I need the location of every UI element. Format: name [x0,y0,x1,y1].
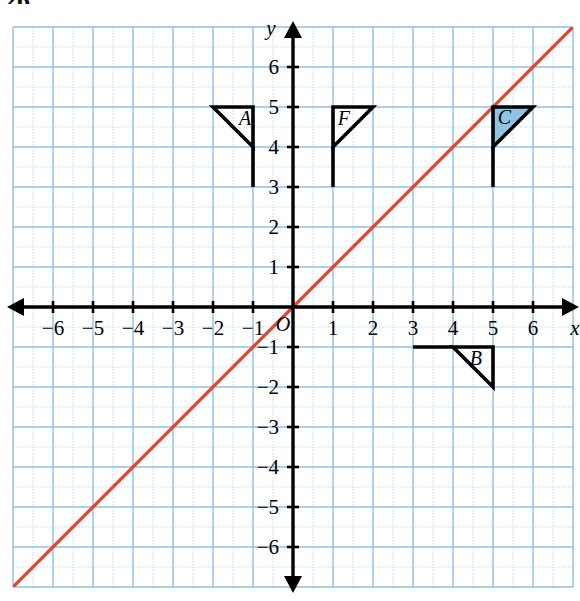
y-tick-label: 3 [269,175,280,199]
x-tick-label: −6 [42,316,64,340]
y-tick-label: −6 [257,535,279,559]
figure-f-label: F [337,107,351,129]
x-tick-label: −5 [82,316,104,340]
y-tick-label: −1 [257,335,279,359]
x-tick-label: 6 [528,316,539,340]
figure-c-label: C [498,106,512,128]
y-axis-label: y [264,16,276,40]
figure-a-label: A [237,107,252,129]
x-tick-label: 3 [408,316,419,340]
y-tick-label: −4 [257,455,280,479]
y-tick-label: −2 [257,375,279,399]
y-tick-label: 5 [269,95,280,119]
coordinate-plane-svg: −6−5−4−3−2−1123456654321−1−2−3−4−5−6 xyO… [0,0,580,601]
x-tick-label: 4 [448,316,459,340]
x-tick-label: −4 [122,316,145,340]
y-tick-label: 4 [269,135,280,159]
x-tick-label: −3 [162,316,184,340]
y-tick-label: −5 [257,495,279,519]
y-tick-label: 6 [269,55,280,79]
x-axis-label: x [569,316,580,340]
y-tick-label: −3 [257,415,279,439]
x-tick-label: 2 [368,316,379,340]
coordinate-plane-figure: −6−5−4−3−2−1123456654321−1−2−3−4−5−6 xyO… [0,0,580,601]
y-tick-label: 1 [269,255,280,279]
figure-b-label: B [470,347,482,369]
x-tick-label: −2 [202,316,224,340]
x-tick-label: 5 [488,316,499,340]
x-tick-label: 1 [328,316,339,340]
y-tick-label: 2 [269,215,280,239]
origin-label: O [276,313,290,335]
